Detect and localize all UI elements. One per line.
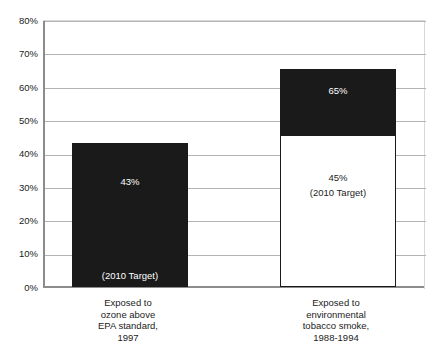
gridline-80 (45, 21, 426, 22)
bar-chart: 80% 70% 60% 50% 40% 30% 20% 10% 0% 43% (… (0, 0, 435, 347)
y-axis-tick-20: 20% (0, 216, 38, 226)
category-ozone-line-1: Exposed to (58, 297, 198, 309)
y-axis-tick-50: 50% (0, 116, 38, 126)
bar-tobacco[interactable]: 65% (280, 69, 396, 136)
bar-tobacco-target-value-label: 45% (281, 172, 395, 183)
category-ozone-line-2: ozone above (58, 309, 198, 321)
y-axis-tick-40: 40% (0, 149, 38, 159)
bar-ozone[interactable]: 43% (2010 Target) 0% (72, 143, 188, 287)
y-axis-tick-10: 10% (0, 249, 38, 259)
bar-ozone-target-value-label: 0% (72, 286, 188, 297)
category-tobacco-line-3: tobacco smoke, (266, 320, 406, 332)
plot-area: 43% (2010 Target) 0% 45% (2010 Target) 6… (43, 21, 424, 288)
category-ozone-line-3: EPA standard, (58, 320, 198, 332)
category-tobacco-line-4: 1988-1994 (266, 332, 406, 344)
gridline-70 (45, 54, 426, 55)
bar-tobacco-target-label: (2010 Target) (281, 187, 395, 198)
bar-ozone-value-label: 43% (72, 176, 188, 187)
category-label-ozone: Exposed to ozone above EPA standard, 199… (58, 297, 198, 343)
category-tobacco-line-2: environmental (266, 309, 406, 321)
bar-tobacco-target-segment[interactable]: 45% (2010 Target) (280, 136, 396, 287)
category-ozone-line-4: 1997 (58, 332, 198, 344)
y-axis-tick-70: 70% (0, 49, 38, 59)
y-axis-tick-30: 30% (0, 183, 38, 193)
category-tobacco-line-1: Exposed to (266, 297, 406, 309)
category-label-tobacco: Exposed to environmental tobacco smoke, … (266, 297, 406, 343)
y-axis-tick-60: 60% (0, 83, 38, 93)
y-axis-tick-0: 0% (0, 283, 38, 293)
bar-ozone-target-label: (2010 Target) (72, 270, 188, 281)
bar-tobacco-value-label: 65% (280, 85, 396, 96)
y-axis-tick-80: 80% (0, 16, 38, 26)
